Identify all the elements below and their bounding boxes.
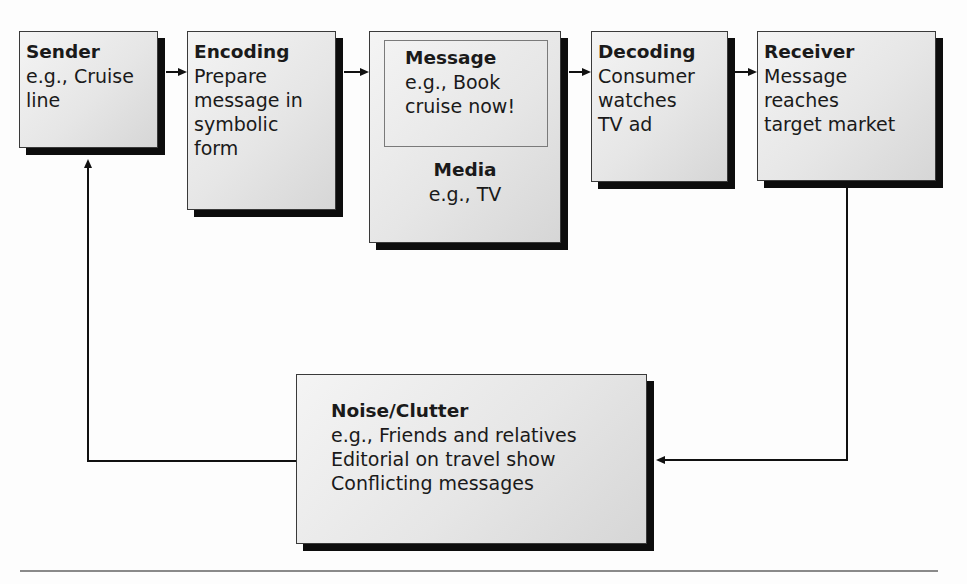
noise-line: Editorial on travel show (331, 447, 646, 471)
receiver-box: Receiver Message reaches target market (757, 31, 936, 181)
receiver-line: Message (764, 64, 929, 88)
encoding-line: symbolic (194, 112, 329, 136)
sender-box: Sender e.g., Cruise line (19, 31, 158, 148)
arrowhead-up-icon (84, 159, 92, 168)
message-box: Message e.g., Book cruise now! (384, 40, 548, 147)
line-noise-left (87, 460, 296, 462)
message-line: cruise now! (405, 94, 547, 118)
media-line: e.g., TV (370, 182, 560, 206)
arrow-decoding-receiver (735, 71, 748, 73)
noise-title: Noise/Clutter (331, 399, 646, 423)
media-title: Media (370, 158, 560, 182)
message-title: Message (405, 46, 547, 70)
decoding-box: Decoding Consumer watches TV ad (591, 31, 728, 182)
arrowhead-left-icon (656, 456, 665, 464)
media-section: Media e.g., TV (370, 158, 560, 206)
encoding-line: form (194, 136, 329, 160)
receiver-line: reaches (764, 88, 929, 112)
arrowhead-right-icon (178, 68, 187, 76)
decoding-line: Consumer (598, 64, 721, 88)
message-line: e.g., Book (405, 70, 547, 94)
line-receiver-down (846, 188, 848, 461)
encoding-line: Prepare (194, 64, 329, 88)
arrow-encoding-message (344, 71, 360, 73)
arrowhead-right-icon (360, 68, 369, 76)
sender-line: e.g., Cruise (26, 64, 151, 88)
noise-box: Noise/Clutter e.g., Friends and relative… (296, 374, 647, 544)
line-to-noise (665, 459, 848, 461)
receiver-title: Receiver (764, 40, 929, 64)
message-media-box: Message e.g., Book cruise now! Media e.g… (369, 31, 561, 243)
arrow-media-decoding (569, 71, 582, 73)
receiver-line: target market (764, 112, 929, 136)
encoding-box: Encoding Prepare message in symbolic for… (187, 31, 336, 210)
arrow-sender-encoding (166, 71, 178, 73)
arrowhead-right-icon (748, 68, 757, 76)
line-feedback-up (87, 168, 89, 462)
sender-line: line (26, 88, 151, 112)
sender-title: Sender (26, 40, 151, 64)
decoding-line: watches (598, 88, 721, 112)
noise-line: Conflicting messages (331, 471, 646, 495)
encoding-title: Encoding (194, 40, 329, 64)
decoding-title: Decoding (598, 40, 721, 64)
bottom-divider (20, 570, 938, 572)
arrowhead-right-icon (582, 68, 591, 76)
decoding-line: TV ad (598, 112, 721, 136)
noise-line: e.g., Friends and relatives (331, 423, 646, 447)
encoding-line: message in (194, 88, 329, 112)
